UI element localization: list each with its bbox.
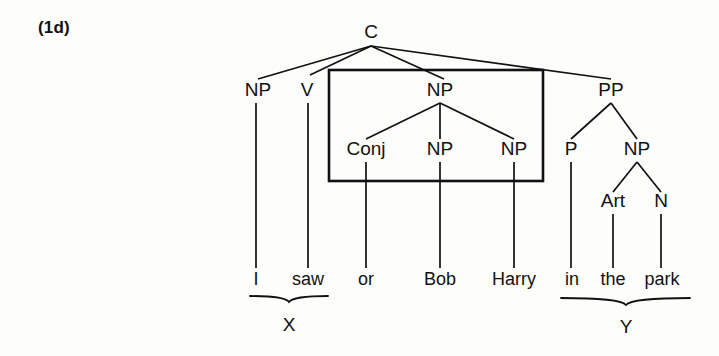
branch-pp-to-p — [571, 103, 611, 139]
node-label-np-bob: NP — [427, 138, 453, 159]
np-obj-branches — [613, 162, 661, 192]
tree-diagram-svg: C NP V NP PP Conj NP NP P NP Art N I saw… — [0, 0, 719, 356]
node-label-conj: Conj — [346, 138, 385, 159]
brace-y-label: Y — [620, 316, 633, 337]
pp-branches — [571, 103, 637, 139]
word-bob: Bob — [424, 269, 456, 289]
node-label-p: P — [565, 138, 578, 159]
brace-x-path — [250, 296, 328, 302]
word-harry: Harry — [492, 269, 536, 289]
branch-c-to-np-subj — [258, 46, 371, 79]
word-saw: saw — [292, 269, 325, 289]
brace-y-path — [561, 298, 690, 305]
node-label-np-obj: NP — [624, 138, 650, 159]
branch-np-to-n — [637, 162, 661, 192]
word-i: I — [253, 269, 258, 289]
branch-np-to-conj — [366, 103, 440, 139]
word-park: park — [644, 269, 680, 289]
node-label-c: C — [364, 21, 378, 42]
node-label-v: V — [301, 79, 314, 100]
coordination-branches — [366, 103, 514, 139]
branch-np-to-art — [613, 162, 637, 192]
node-label-np-subj: NP — [245, 79, 271, 100]
terminal-words: I saw or Bob Harry in the park — [253, 269, 680, 289]
root-branches — [258, 46, 611, 79]
node-label-art: Art — [601, 190, 626, 211]
word-in: in — [565, 269, 579, 289]
brace-x-label: X — [283, 314, 296, 335]
node-label-pp: PP — [598, 79, 623, 100]
word-the: the — [600, 269, 625, 289]
syntax-tree-figure: (1d) — [0, 0, 719, 356]
span-braces: X Y — [250, 296, 690, 337]
branch-pp-to-np-obj — [611, 103, 637, 139]
node-label-np-coord: NP — [427, 79, 453, 100]
node-label-np-harry: NP — [501, 138, 527, 159]
branch-np-to-np-harry — [440, 103, 514, 139]
terminal-stems — [256, 103, 661, 268]
word-or: or — [358, 269, 374, 289]
node-label-n: N — [654, 190, 668, 211]
